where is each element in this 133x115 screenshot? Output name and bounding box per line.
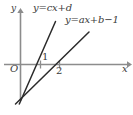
origin-label: O xyxy=(10,64,18,74)
y-axis-label: y xyxy=(11,4,16,13)
y-axis xyxy=(17,8,23,101)
line-shallow-y-equals-ax-plus-b-minus-1 xyxy=(16,32,90,104)
equation-label-steep-line: y=cx+d xyxy=(33,3,72,13)
equation-label-shallow-line: y=ax+b−1 xyxy=(65,15,119,25)
line-steep-y-equals-cx-plus-d xyxy=(19,22,55,105)
x-axis-arrow xyxy=(127,61,132,68)
x-tick-label-2: 2 xyxy=(56,66,62,76)
x-axis xyxy=(4,61,132,68)
x-tick-label-1: 1 xyxy=(42,52,48,62)
y-axis-arrow xyxy=(17,8,23,13)
x-axis-label: x xyxy=(122,64,127,74)
coordinate-plane-figure: y x O 1 2 y=cx+d y=ax+b−1 xyxy=(0,0,133,115)
